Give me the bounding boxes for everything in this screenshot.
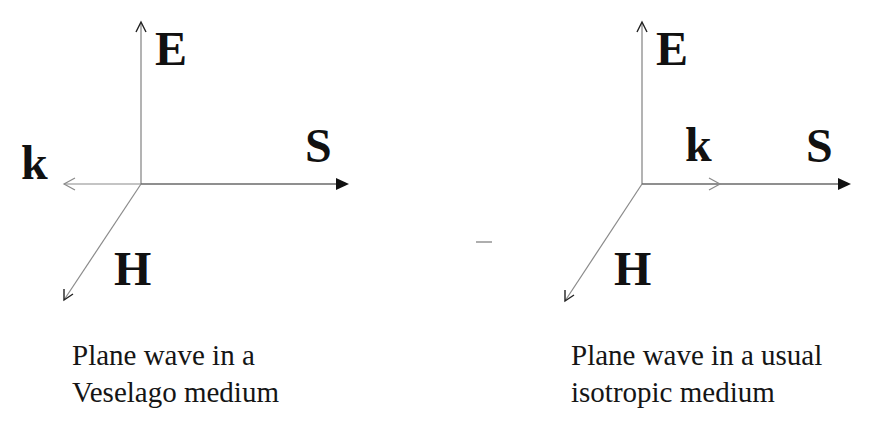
h-field-label: H xyxy=(114,245,151,293)
caption-line-1: Plane wave in a xyxy=(72,337,279,374)
isotropic-caption: Plane wave in a usual isotropic medium xyxy=(571,337,822,411)
veselago-caption: Plane wave in a Veselago medium xyxy=(72,337,279,411)
wave-vector-arrow-icon xyxy=(64,178,141,190)
caption-line-2: isotropic medium xyxy=(571,374,822,411)
poynting-vector-arrow-icon xyxy=(642,178,851,190)
poynting-vector-label: S xyxy=(305,122,332,170)
poynting-vector-arrow-icon xyxy=(141,178,349,190)
e-field-arrow-icon xyxy=(637,22,647,184)
h-field-label: H xyxy=(614,245,651,293)
caption-line-2: Veselago medium xyxy=(72,374,279,411)
e-field-label: E xyxy=(155,25,187,73)
e-field-label: E xyxy=(656,25,688,73)
poynting-vector-label: S xyxy=(806,122,833,170)
caption-line-1: Plane wave in a usual xyxy=(571,337,822,374)
wave-vector-label: k xyxy=(21,139,48,187)
e-field-arrow-icon xyxy=(136,22,146,184)
wave-vector-label: k xyxy=(685,121,712,169)
